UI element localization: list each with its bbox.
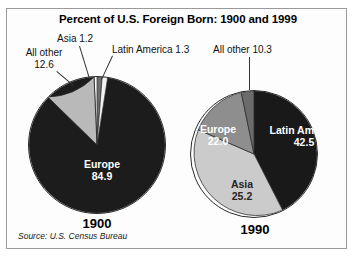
callout-asia-1900-text: Asia 1.2 xyxy=(57,33,93,44)
slice-label-europe-1900-value: 84.9 xyxy=(72,170,132,182)
slice-label-europe-1990: Europe 22.0 xyxy=(194,123,242,147)
page-title: Percent of U.S. Foreign Born: 1900 and 1… xyxy=(0,13,356,25)
slice-label-latin-america-1990-name: Latin America xyxy=(269,124,338,136)
chart-page: Percent of U.S. Foreign Born: 1900 and 1… xyxy=(0,0,356,259)
callout-latin-america-1900: Latin America 1.3 xyxy=(112,44,189,56)
slice-label-europe-1900-name: Europe xyxy=(84,158,120,170)
year-caption-1990: 1990 xyxy=(225,222,285,237)
slice-label-latin-america-1990: Latin America 42.5 xyxy=(258,124,350,148)
year-caption-1900: 1900 xyxy=(67,216,127,231)
callout-all-other-1990: All other 10.3 xyxy=(213,44,272,56)
pie-chart-1900 xyxy=(28,76,166,214)
callout-all-other-1900-name: All other xyxy=(26,47,63,58)
slice-label-asia-1990-value: 25.2 xyxy=(219,190,265,202)
slice-label-asia-1990-name: Asia xyxy=(231,178,253,190)
slice-label-latin-america-1990-value: 42.5 xyxy=(258,136,350,148)
callout-asia-1900: Asia 1.2 xyxy=(57,33,93,45)
slice-label-europe-1990-name: Europe xyxy=(200,123,236,135)
slice-label-europe-1900: Europe 84.9 xyxy=(72,158,132,182)
slice-label-asia-1990: Asia 25.2 xyxy=(219,178,265,202)
source-note: Source: U.S. Census Bureau xyxy=(18,231,127,241)
slice-label-europe-1990-value: 22.0 xyxy=(194,135,242,147)
callout-all-other-1900: All other 12.6 xyxy=(13,47,75,70)
leader-line-all-other-1990 xyxy=(249,57,250,90)
callout-all-other-1990-text: All other 10.3 xyxy=(213,44,272,55)
callout-all-other-1900-value: 12.6 xyxy=(34,59,53,70)
callout-latin-america-1900-text: Latin America 1.3 xyxy=(112,44,189,55)
